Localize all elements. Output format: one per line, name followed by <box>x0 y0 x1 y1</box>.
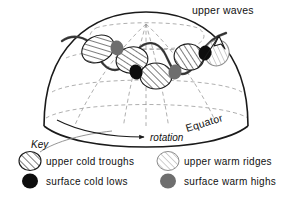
key-title: Key <box>31 139 49 150</box>
legend-group: upper cold troughs upper warm ridges sur… <box>19 152 276 189</box>
upper-cold-trough-marker <box>140 63 172 89</box>
legend-swatch-hatched-ellipse-light-icon <box>157 152 179 171</box>
legend-item-surface-warm-highs: surface warm highs <box>160 174 276 189</box>
legend-label-surface-cold-lows: surface cold lows <box>46 176 128 187</box>
legend-label-upper-warm-ridges: upper warm ridges <box>184 156 272 167</box>
legend-item-upper-cold-troughs: upper cold troughs <box>19 152 134 171</box>
rotation-label: rotation <box>150 132 184 143</box>
upper-waves-label: upper waves <box>192 4 254 16</box>
legend-swatch-filled-circle-gray-icon <box>160 174 176 189</box>
legend-item-surface-cold-lows: surface cold lows <box>22 174 128 189</box>
upper-waves-hemisphere-diagram: upper waves Equator rotation Key upper c… <box>0 0 292 199</box>
diagram-figure: upper waves Equator rotation Key upper c… <box>0 0 292 199</box>
legend-swatch-hatched-ellipse-dark-icon <box>19 152 41 171</box>
legend-label-upper-cold-troughs: upper cold troughs <box>46 156 134 167</box>
legend-item-upper-warm-ridges: upper warm ridges <box>157 152 272 171</box>
legend-label-surface-warm-highs: surface warm highs <box>184 176 276 187</box>
legend-swatch-filled-circle-black-icon <box>22 174 38 189</box>
